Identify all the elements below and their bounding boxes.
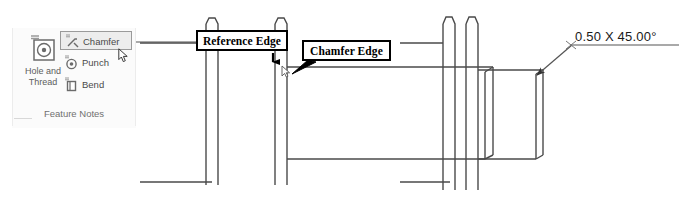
chamfer-icon (65, 34, 80, 49)
hole-thread-icon (28, 33, 58, 63)
bend-button[interactable]: Bend (60, 75, 132, 94)
screenshot-root: Hole and Thread Chamfer Punch (0, 0, 679, 201)
right-view-geometry (400, 17, 543, 190)
chamfer-label: Chamfer (83, 36, 119, 47)
bend-icon (64, 77, 79, 92)
punch-icon (64, 55, 79, 70)
feature-notes-ribbon-panel: Hole and Thread Chamfer Punch (12, 28, 136, 128)
punch-label: Punch (82, 57, 109, 68)
mouse-pointer-icon (118, 48, 129, 63)
chamfer-dimension-leader (537, 41, 679, 75)
reference-edge-callout: Reference Edge (196, 30, 288, 51)
chamfer-edge-callout: Chamfer Edge (302, 40, 391, 61)
bend-label: Bend (82, 79, 104, 90)
panel-bottom-rule (14, 118, 32, 119)
chamfer-dimension-text: 0.50 X 45.00° (575, 29, 657, 44)
